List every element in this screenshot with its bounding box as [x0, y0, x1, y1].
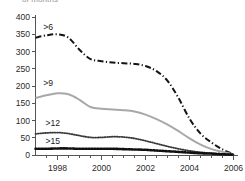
y-tick-label: 400 — [16, 12, 31, 22]
y-tick-label: 0 — [25, 150, 30, 160]
y-tick-label: 350 — [16, 29, 31, 39]
line-chart: 0501001502002503003504001998200020022004… — [0, 0, 245, 181]
series-line-gt9 — [36, 93, 234, 154]
x-tick-label: 2006 — [224, 163, 243, 173]
y-tick-label: 100 — [16, 116, 31, 126]
y-tick-label: 150 — [16, 98, 31, 108]
series-line-gt15 — [36, 148, 234, 154]
x-tick-label: 1998 — [48, 163, 67, 173]
series-label-gt6: >6 — [43, 22, 53, 32]
series-label-gt12: >12 — [45, 118, 60, 128]
x-tick-label: 2004 — [180, 163, 199, 173]
series-label-gt9: >9 — [43, 78, 53, 88]
y-tick-label: 50 — [20, 133, 30, 143]
x-tick-label: 2000 — [92, 163, 111, 173]
x-tick-label: 2002 — [136, 163, 155, 173]
series-label-gt15: >15 — [45, 136, 60, 146]
y-tick-label: 300 — [16, 47, 31, 57]
chart-container: of months 050100150200250300350400199820… — [0, 0, 245, 181]
y-tick-label: 200 — [16, 81, 31, 91]
y-tick-label: 250 — [16, 64, 31, 74]
